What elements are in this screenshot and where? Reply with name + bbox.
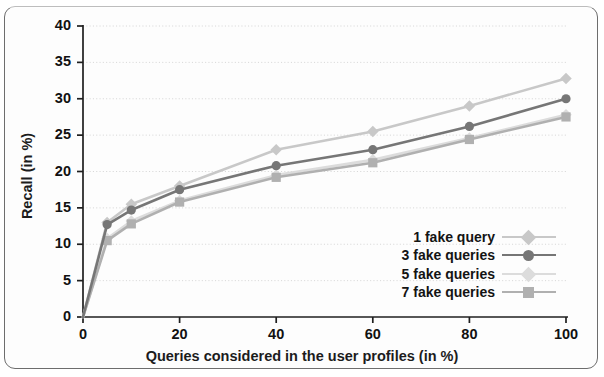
legend-label: 7 fake queries <box>402 284 495 300</box>
legend-item-1-fake-query: 1 fake query <box>306 228 556 245</box>
marker-circle-3-fake-queries-80 <box>465 122 474 131</box>
x-tick-label-80: 80 <box>444 326 494 342</box>
legend-label: 5 fake queries <box>402 266 495 282</box>
marker-circle-3-fake-queries-5 <box>103 220 112 229</box>
y-tick-label-35: 35 <box>31 53 71 69</box>
marker-diamond-1-fake-query-80 <box>464 100 476 112</box>
y-tick-label-20: 20 <box>31 163 71 179</box>
legend-marker-sample <box>502 284 556 300</box>
legend-marker-sample <box>502 266 556 282</box>
x-tick-label-60: 60 <box>348 326 398 342</box>
x-tick-label-0: 0 <box>58 326 108 342</box>
marker-diamond-1-fake-query-100 <box>560 73 572 85</box>
x-tick-label-20: 20 <box>155 326 205 342</box>
marker-square-7-fake-queries-40 <box>272 173 281 182</box>
marker-circle-3-fake-queries-10 <box>127 205 136 214</box>
legend-marker-square-icon <box>523 287 534 298</box>
marker-circle-3-fake-queries-40 <box>272 161 281 170</box>
legend-marker-circle-icon <box>523 250 534 261</box>
y-tick-label-40: 40 <box>31 17 71 33</box>
marker-square-7-fake-queries-60 <box>368 158 377 167</box>
marker-diamond-1-fake-query-40 <box>270 144 282 156</box>
y-tick-label-10: 10 <box>31 235 71 251</box>
x-tick-label-40: 40 <box>251 326 301 342</box>
marker-circle-3-fake-queries-100 <box>561 94 570 103</box>
legend-item-7-fake-queries: 7 fake queries <box>306 284 556 301</box>
y-tick-label-5: 5 <box>31 272 71 288</box>
marker-square-7-fake-queries-20 <box>175 197 184 206</box>
legend-label: 3 fake queries <box>402 247 495 263</box>
y-tick-label-0: 0 <box>31 308 71 324</box>
x-axis-title: Queries considered in the user profiles … <box>0 348 604 364</box>
y-tick-label-25: 25 <box>31 126 71 142</box>
marker-square-7-fake-queries-100 <box>561 112 570 121</box>
legend-marker-sample <box>502 229 556 245</box>
marker-square-7-fake-queries-10 <box>127 219 136 228</box>
y-tick-label-30: 30 <box>31 90 71 106</box>
marker-circle-3-fake-queries-60 <box>368 145 377 154</box>
recall-line-chart: Recall (in %) Queries considered in the … <box>0 0 604 377</box>
legend-marker-sample <box>502 247 556 263</box>
plot-canvas <box>0 0 604 377</box>
marker-square-7-fake-queries-80 <box>465 135 474 144</box>
legend-label: 1 fake query <box>413 229 495 245</box>
x-tick-label-100: 100 <box>541 326 591 342</box>
legend-marker-diamond-icon <box>521 229 537 245</box>
legend-marker-diamond-icon <box>521 266 537 282</box>
legend-item-3-fake-queries: 3 fake queries <box>306 247 556 264</box>
marker-circle-3-fake-queries-20 <box>175 185 184 194</box>
legend-item-5-fake-queries: 5 fake queries <box>306 265 556 282</box>
y-tick-label-15: 15 <box>31 199 71 215</box>
